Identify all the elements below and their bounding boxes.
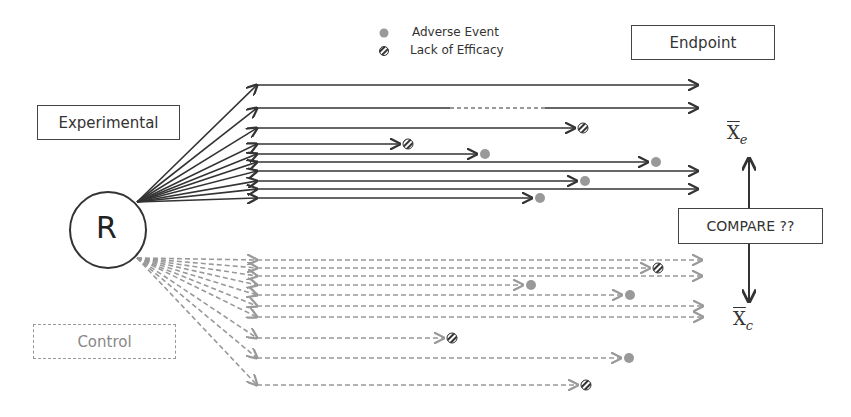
endpoint-box: Endpoint	[631, 25, 775, 60]
experimental-mean-label: Xe	[727, 122, 748, 147]
adverse-event-icon	[535, 193, 545, 203]
adverse-event-icon	[480, 149, 490, 159]
experimental-arm	[137, 149, 490, 202]
lack-of-efficacy-icon	[653, 263, 663, 273]
compare-box: COMPARE ??	[678, 208, 823, 244]
control-label: Control	[77, 333, 131, 351]
control-arm	[137, 258, 591, 390]
control-arm	[137, 258, 634, 363]
experimental-label: Experimental	[58, 114, 158, 132]
adverse-event-icon	[625, 290, 635, 300]
control-arm	[137, 258, 703, 317]
adverse-event-icon	[651, 157, 661, 167]
legend-lack-of-efficacy-icon	[380, 47, 389, 56]
experimental-box: Experimental	[37, 105, 180, 140]
lack-of-efficacy-icon	[447, 333, 457, 343]
experimental-arm	[137, 193, 545, 203]
legend-lack-of-efficacy-label: Lack of Efficacy	[410, 43, 504, 57]
lack-of-efficacy-icon	[578, 123, 588, 133]
control-arm	[137, 258, 702, 260]
legend-adverse-event-label: Adverse Event	[412, 25, 499, 39]
experimental-arm	[137, 85, 698, 202]
lack-of-efficacy-icon	[403, 139, 413, 149]
legend-adverse-event-icon	[380, 29, 389, 38]
control-box: Control	[33, 324, 176, 359]
control-arms	[137, 258, 703, 390]
randomization-label: R	[96, 210, 117, 245]
lack-of-efficacy-icon	[581, 380, 591, 390]
adverse-event-icon	[580, 176, 590, 186]
compare-label: COMPARE ??	[707, 218, 795, 234]
experimental-arm	[137, 189, 698, 202]
endpoint-label: Endpoint	[670, 34, 737, 52]
adverse-event-icon	[526, 280, 536, 290]
control-mean-label: Xc	[733, 308, 753, 333]
control-arm	[137, 258, 703, 306]
control-arm	[137, 258, 457, 343]
control-arm	[137, 258, 663, 273]
adverse-event-icon	[624, 353, 634, 363]
experimental-arms	[137, 85, 698, 203]
